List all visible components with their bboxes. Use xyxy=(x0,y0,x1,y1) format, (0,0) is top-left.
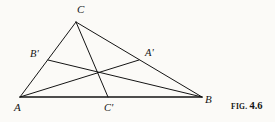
vertex-label-a: A xyxy=(14,102,21,113)
median-AA xyxy=(20,60,139,97)
midpoint-label-b-prime: B' xyxy=(30,49,39,60)
midpoint-label-a-prime: A' xyxy=(145,48,154,59)
vertex-label-b: B xyxy=(205,94,212,105)
segment-group xyxy=(20,22,202,97)
vertex-label-c: C xyxy=(77,4,84,15)
figure-page: C A B A' B' C' FIG.4.6 xyxy=(0,0,275,122)
midpoint-label-c-prime: C' xyxy=(104,103,113,114)
side-AC xyxy=(20,22,76,97)
figure-caption-prefix: FIG. xyxy=(231,102,247,111)
median-CC xyxy=(76,22,108,97)
figure-caption: FIG.4.6 xyxy=(231,96,263,112)
figure-caption-number: 4.6 xyxy=(249,100,262,111)
median-BB xyxy=(48,60,202,97)
